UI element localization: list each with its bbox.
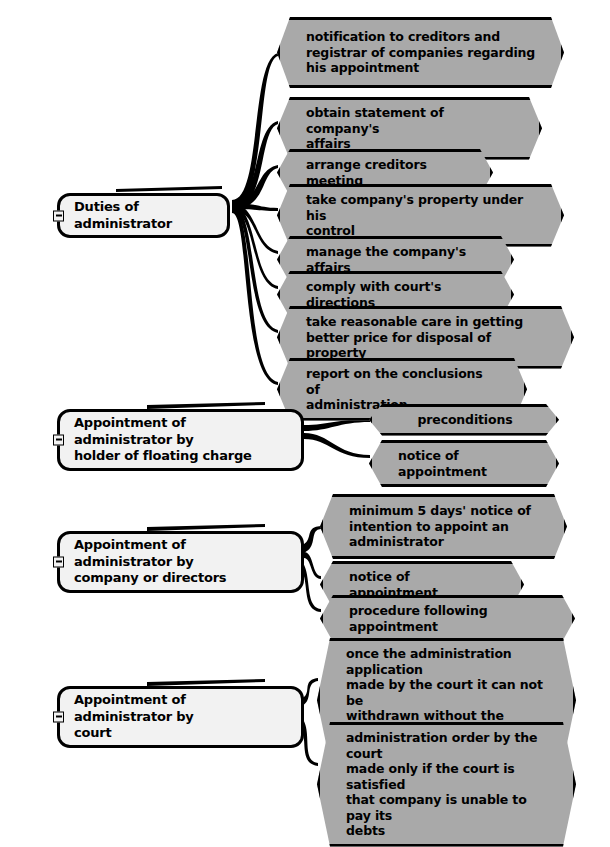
minus-box-icon[interactable] xyxy=(53,556,64,567)
parent-node-company-or-directors[interactable]: Appointment of administrator by company … xyxy=(57,531,304,593)
parent-node-label: Appointment of administrator by company … xyxy=(74,537,285,587)
parent-node-label: Duties of administrator xyxy=(74,199,211,232)
parent-node-duties[interactable]: Duties of administrator xyxy=(57,193,230,238)
child-node-label: arrange creditors meeting xyxy=(306,157,466,188)
child-node-label: preconditions xyxy=(418,412,513,428)
child-node-label: procedure following appointment xyxy=(349,603,548,634)
minus-box-icon[interactable] xyxy=(53,434,64,445)
child-node[interactable]: notification to creditors and registrar … xyxy=(277,17,564,88)
child-node-label: manage the company's affairs xyxy=(306,244,487,275)
child-node-label: obtain statement of company's affairs xyxy=(306,105,515,152)
child-node-label: comply with court's directions xyxy=(306,279,487,310)
child-node[interactable]: administration order by the court made o… xyxy=(317,722,576,847)
parent-node-floating-charge[interactable]: Appointment of administrator by holder o… xyxy=(57,409,304,471)
child-node-label: take company's property under his contro… xyxy=(306,192,537,239)
child-node-label: notice of appointment xyxy=(398,448,532,479)
child-node-label: minimum 5 days' notice of intention to a… xyxy=(349,503,531,550)
parent-node-label: Appointment of administrator by court xyxy=(74,692,285,742)
child-node-label: administration order by the court made o… xyxy=(346,730,549,839)
child-node-label: notification to creditors and registrar … xyxy=(306,29,535,76)
child-node[interactable]: notice of appointment xyxy=(369,440,559,487)
child-node[interactable]: preconditions xyxy=(369,404,559,436)
child-node-label: take reasonable care in getting better p… xyxy=(306,314,547,361)
parent-node-label: Appointment of administrator by holder o… xyxy=(74,415,285,465)
child-node[interactable]: minimum 5 days' notice of intention to a… xyxy=(320,494,567,559)
minus-box-icon[interactable] xyxy=(53,711,64,722)
parent-node-court[interactable]: Appointment of administrator by court xyxy=(57,686,304,748)
child-node[interactable]: procedure following appointment xyxy=(320,595,575,642)
minus-box-icon[interactable] xyxy=(53,210,64,221)
